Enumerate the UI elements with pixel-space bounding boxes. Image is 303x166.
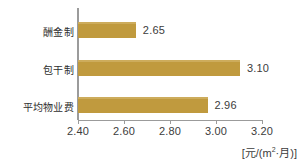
bar-value-label-2: 2.96 (215, 99, 237, 111)
unit-prefix: [元/( (242, 147, 263, 159)
x-axis-tick-mark (124, 120, 125, 124)
bar-row: 3.10 (78, 60, 303, 76)
bar-1 (78, 60, 240, 76)
x-axis-tick-mark (78, 120, 79, 124)
x-axis-unit-label: [元/(m2·月)] (242, 144, 297, 160)
bar-row: 2.65 (78, 22, 303, 38)
x-tick-label-4: 3.20 (245, 125, 279, 137)
category-label-0: 酬金制 (43, 24, 74, 39)
unit-suffix: ·月)] (276, 147, 297, 159)
x-tick-label-3: 3.00 (199, 125, 233, 137)
category-label-1: 包干制 (43, 62, 74, 77)
x-axis-tick-mark (216, 120, 217, 124)
bar-0 (78, 22, 136, 38)
x-axis-tick-mark (262, 120, 263, 124)
bar-row: 2.96 (78, 97, 303, 113)
unit-meter: m (263, 147, 272, 159)
bar-value-label-1: 3.10 (247, 62, 269, 74)
bar-value-label-0: 2.65 (143, 24, 165, 36)
x-tick-label-2: 2.80 (153, 125, 187, 137)
x-tick-label-1: 2.60 (107, 125, 141, 137)
x-axis-tick-mark (170, 120, 171, 124)
x-tick-label-0: 2.40 (61, 125, 95, 137)
bar-chart: 酬金制 包干制 平均物业费 2.65 3.10 2.96 2.40 2.60 2… (0, 0, 303, 166)
category-label-2: 平均物业费 (23, 99, 75, 114)
bar-2 (78, 97, 208, 113)
